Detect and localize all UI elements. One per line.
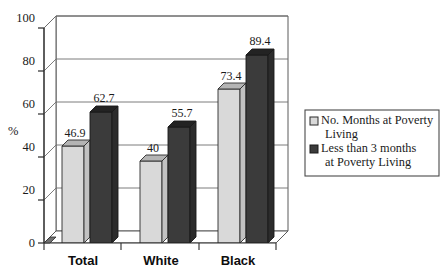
- bar-black-less-than-3-months: [246, 49, 274, 243]
- x-axis-labels: Total White Black: [68, 253, 256, 268]
- bar-front-face: [218, 89, 240, 243]
- legend-label-less-than-3-line2: at Poverty Living: [325, 155, 411, 169]
- y-tick-label-0: 0: [29, 236, 35, 250]
- light-gray-swatch: [310, 117, 318, 125]
- bar-front-face: [140, 161, 162, 243]
- y-axis-title: %: [8, 124, 18, 138]
- bar-front-face: [168, 127, 190, 243]
- y-tick-labels: 100 80 60 40 20 0: [16, 11, 35, 250]
- value-label-total-light: 46.9: [65, 126, 86, 140]
- left-wall: [44, 16, 56, 243]
- bar-total-no-months: [62, 140, 90, 243]
- value-label-white-dark: 55.7: [172, 106, 193, 120]
- legend-label-no-months-line2: Living: [325, 127, 358, 141]
- legend: No. Months at Poverty Living Less than 3…: [305, 110, 439, 176]
- bar-black-no-months: [218, 83, 246, 243]
- y-axis: [38, 28, 44, 243]
- y-tick-label-20: 20: [23, 183, 36, 197]
- cat-label-white: White: [143, 253, 178, 268]
- value-label-total-dark: 62.7: [94, 91, 115, 105]
- y-tick-label-60: 60: [23, 97, 36, 111]
- legend-label-less-than-3-line1: Less than 3 months: [321, 141, 417, 155]
- bar-side-face: [240, 83, 246, 243]
- poverty-living-bar-chart: 100 80 60 40 20 0 %: [0, 0, 443, 273]
- chart-svg: 100 80 60 40 20 0 %: [0, 0, 443, 273]
- cat-label-total: Total: [68, 253, 98, 268]
- value-label-black-dark: 89.4: [250, 34, 271, 48]
- dark-gray-swatch: [310, 145, 318, 153]
- bar-front-face: [246, 55, 268, 243]
- y-tick-label-40: 40: [23, 140, 36, 154]
- bar-white-no-months: [140, 155, 168, 243]
- bar-side-face: [84, 140, 90, 243]
- value-label-white-light: 40: [147, 141, 159, 155]
- bar-total-less-than-3-months: [90, 106, 118, 243]
- bar-side-face: [268, 49, 274, 243]
- y-tick-label-80: 80: [23, 54, 36, 68]
- bar-side-face: [190, 121, 196, 243]
- cat-label-black: Black: [221, 253, 256, 268]
- bar-side-face: [112, 106, 118, 243]
- bar-side-face: [162, 155, 168, 243]
- value-label-black-light: 73.4: [221, 69, 242, 83]
- bar-front-face: [90, 112, 112, 243]
- bar-white-less-than-3-months: [168, 121, 196, 243]
- y-tick-label-100: 100: [16, 11, 35, 25]
- bar-front-face: [62, 146, 84, 243]
- legend-label-no-months-line1: No. Months at Poverty: [321, 113, 434, 127]
